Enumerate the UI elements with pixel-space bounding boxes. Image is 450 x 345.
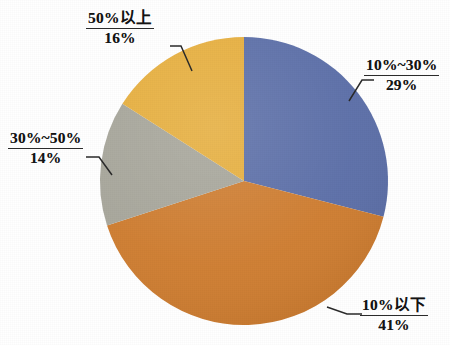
pie-label-30to50-category: 30%~50% <box>8 130 83 149</box>
pie-label-30to50-value: 14% <box>8 149 83 167</box>
pie-label-10to30: 10%~30% 29% <box>364 57 439 93</box>
pie-label-under10-category: 10%以下 <box>360 297 428 316</box>
pie-label-30to50: 30%~50% 14% <box>8 130 83 166</box>
pie-chart: 50%以上 16% 10%~30% 29% 30%~50% 14% 10%以下 … <box>0 0 450 345</box>
leader-line-under10 <box>327 307 362 314</box>
pie-label-under10: 10%以下 41% <box>360 297 428 333</box>
pie-label-over50: 50%以上 16% <box>86 10 154 46</box>
pie-label-10to30-category: 10%~30% <box>364 57 439 76</box>
pie-sheen-overlay <box>100 37 388 325</box>
pie-label-over50-value: 16% <box>86 29 154 47</box>
pie-label-10to30-value: 29% <box>364 76 439 94</box>
pie-label-over50-category: 50%以上 <box>86 10 154 29</box>
pie-chart-canvas <box>0 0 450 345</box>
pie-label-under10-value: 41% <box>360 316 428 334</box>
